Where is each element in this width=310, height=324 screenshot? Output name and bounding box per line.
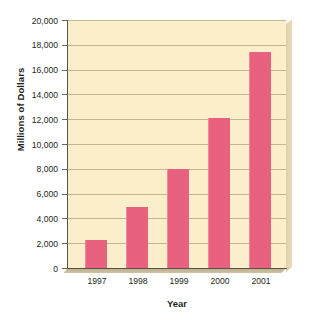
bar-1999 xyxy=(167,169,189,268)
y-tick-mark xyxy=(62,218,68,219)
y-tick-label: 12,000 xyxy=(2,115,58,125)
y-tick-label: 10,000 xyxy=(2,140,58,150)
y-tick-label: 20,000 xyxy=(2,16,58,26)
y-tick-mark xyxy=(62,119,68,120)
gridline xyxy=(68,20,286,21)
x-tick-label-2001: 2001 xyxy=(233,276,289,286)
y-tick-label: 0 xyxy=(2,264,58,274)
y-tick-mark xyxy=(62,20,68,21)
y-tick-mark xyxy=(62,194,68,195)
y-tick-label: 8,000 xyxy=(2,164,58,174)
y-tick-label: 18,000 xyxy=(2,40,58,50)
bar-chart-figure: Millions of Dollars 20,000 18,000 16,000… xyxy=(0,0,310,324)
y-tick-label: 4,000 xyxy=(2,214,58,224)
bar-2001 xyxy=(249,52,271,268)
y-tick-mark xyxy=(62,144,68,145)
gridline xyxy=(68,45,286,46)
x-axis-title: Year xyxy=(68,298,286,309)
plot-area xyxy=(68,20,286,268)
y-tick-label: 2,000 xyxy=(2,239,58,249)
plot-bevel-right xyxy=(286,19,292,272)
bar-1998 xyxy=(126,207,148,268)
bar-2000 xyxy=(208,118,230,268)
y-tick-mark xyxy=(62,243,68,244)
y-tick-mark xyxy=(62,169,68,170)
y-tick-mark xyxy=(62,94,68,95)
x-axis-line xyxy=(67,268,287,269)
y-tick-mark xyxy=(62,268,68,269)
y-tick-mark xyxy=(62,70,68,71)
y-tick-label: 14,000 xyxy=(2,90,58,100)
bar-1997 xyxy=(85,240,107,269)
y-tick-label: 16,000 xyxy=(2,65,58,75)
y-tick-label: 6,000 xyxy=(2,189,58,199)
y-tick-mark xyxy=(62,45,68,46)
